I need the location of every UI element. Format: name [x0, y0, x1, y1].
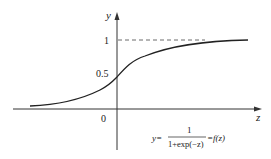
sigmoid-diagram: y z 0 1 0.5 y= 1 1+exp(−z) =f(z): [0, 0, 271, 159]
formula-numerator: 1: [187, 125, 192, 135]
y-axis-label: y: [105, 9, 111, 21]
formula-denominator: 1+exp(−z): [168, 139, 204, 149]
sigmoid-curve: [30, 40, 248, 106]
y-tick-1: 1: [104, 35, 109, 46]
y-tick-half: 0.5: [96, 68, 109, 79]
origin-label: 0: [101, 113, 106, 124]
x-axis-label: z: [255, 111, 261, 123]
formula-lhs: y=: [151, 133, 162, 143]
y-axis-arrow-icon: [115, 12, 120, 20]
formula-rhs: =f(z): [207, 133, 225, 143]
